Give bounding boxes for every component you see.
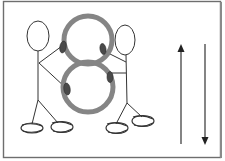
diagram-canvas (0, 0, 225, 161)
figure-eight-bottom-ring (63, 62, 113, 112)
right-figure-leg-right (127, 103, 142, 117)
right-figure-leg-left (116, 103, 127, 124)
right-figure-foot-left (106, 123, 128, 134)
diagram-svg (0, 0, 225, 161)
right-figure-head (115, 25, 135, 55)
left-figure-foot-right (51, 122, 73, 133)
figure-eight-loop (63, 16, 113, 112)
left-figure-arm-upper (39, 46, 62, 63)
right-figure-body (126, 55, 127, 103)
figure-eight-top-ring (64, 16, 112, 64)
left-figure-leg-left (32, 100, 38, 124)
grip-bottom-right (107, 72, 113, 83)
left-figure-leg-right (38, 100, 58, 123)
left-figure-foot-left (21, 123, 43, 133)
down-arrow (202, 44, 209, 145)
up-arrow-head-icon (178, 44, 185, 52)
down-arrow-head-icon (202, 137, 209, 145)
right-figure-foot-right (132, 116, 154, 127)
grip-top-right (99, 43, 107, 55)
up-arrow (178, 44, 185, 144)
left-figure-head (27, 21, 49, 51)
